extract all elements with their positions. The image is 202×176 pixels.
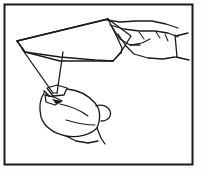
illustration-figure [0,0,202,176]
illustration-border [5,5,193,165]
figure-caption [0,167,202,176]
illustration-canvas [0,0,202,176]
